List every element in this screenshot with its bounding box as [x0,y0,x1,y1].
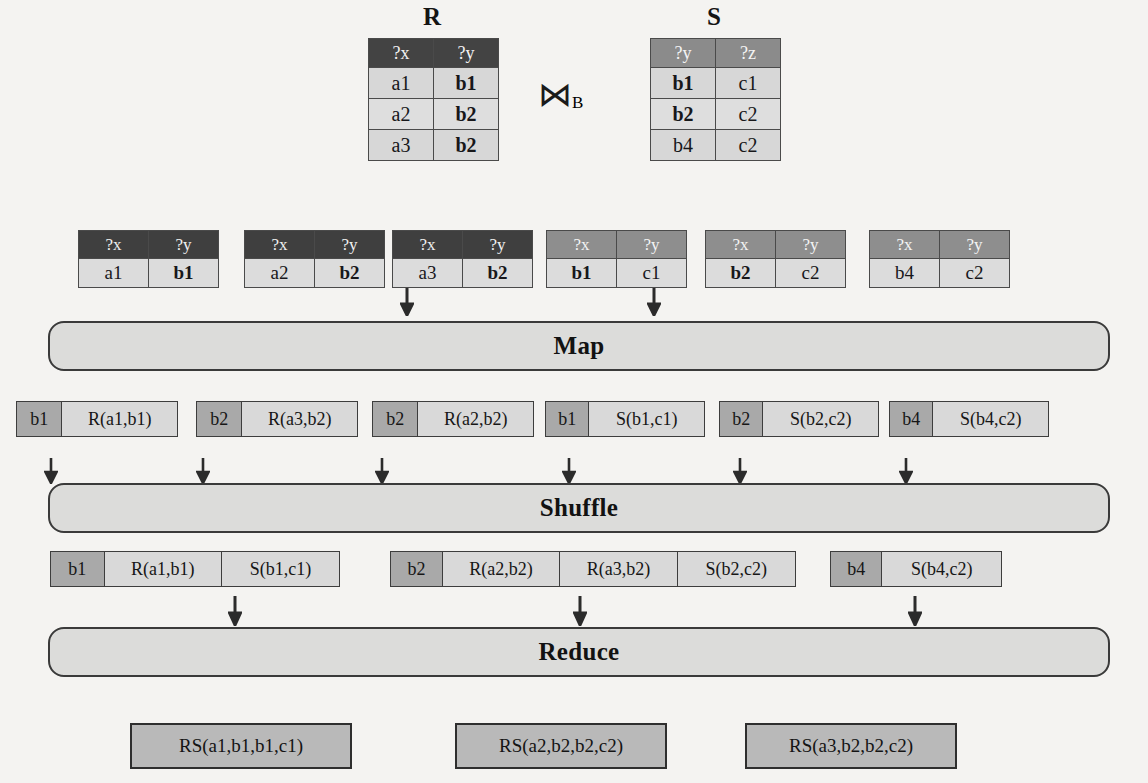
join-subscript: B [572,93,583,112]
shuffle-output-group: b4 S(b4,c2) [830,551,1002,587]
stage-label-reduce: Reduce [539,638,620,666]
split-table: ?x ?y a2 b2 [244,230,385,288]
column-header-x: ?x [245,231,315,259]
pair-value: S(b4,c2) [933,402,1048,436]
column-header-z: ?z [716,39,781,68]
arrow-down-icon [400,288,414,316]
table-header-row: ?x ?y [706,231,846,259]
cell-x: a3 [369,130,434,161]
table-header-row: ?x ?y [547,231,687,259]
table-header-row: ?x ?y [369,39,499,68]
relation-s-table: ?y ?z b1 c1 b2 c2 b4 c2 [650,38,781,161]
cell-y: c1 [617,259,687,288]
column-header-y: ?y [651,39,716,68]
pair-key: b2 [373,402,418,436]
group-key: b1 [51,552,105,586]
column-header-x: ?x [393,231,463,259]
split-table: ?x ?y b1 c1 [546,230,687,288]
cell-y: b2 [434,130,499,161]
map-output-pair: b1 R(a1,b1) [16,401,178,437]
cell-y: b2 [463,259,533,288]
cell-y: b2 [315,259,385,288]
column-header-y: ?y [434,39,499,68]
table-header-row: ?x ?y [870,231,1010,259]
group-key: b2 [391,552,443,586]
cell-x: b1 [547,259,617,288]
pair-key: b2 [720,402,763,436]
map-output-pair: b2 R(a2,b2) [372,401,534,437]
cell-y: b1 [149,259,219,288]
pair-key: b4 [890,402,933,436]
cell-y: b1 [434,68,499,99]
cell-y: c2 [776,259,846,288]
map-output-pair: b2 S(b2,c2) [719,401,879,437]
reduce-result-box: RS(a2,b2,b2,c2) [455,723,667,769]
shuffle-output-group: b1 R(a1,b1) S(b1,c1) [50,551,340,587]
cell-x: a1 [79,259,149,288]
diagram-canvas: R ?x ?y a1 b1 a2 b2 a3 b2 ⋈B S ?y ?z b1 … [0,0,1148,783]
pair-value: S(b2,c2) [763,402,878,436]
column-header-y: ?y [617,231,687,259]
arrow-down-icon [573,596,587,626]
arrow-down-icon [228,596,242,626]
table-header-row: ?x ?y [393,231,533,259]
stage-label-map: Map [554,332,605,360]
relation-r-table: ?x ?y a1 b1 a2 b2 a3 b2 [368,38,499,161]
map-output-pair: b2 R(a3,b2) [196,401,358,437]
cell-y: b4 [651,130,716,161]
reduce-result-box: RS(a3,b2,b2,c2) [745,723,957,769]
column-header-y: ?y [776,231,846,259]
group-value: S(b4,c2) [882,552,1001,586]
pair-value: R(a3,b2) [242,402,357,436]
pair-value: R(a2,b2) [418,402,533,436]
pair-value: S(b1,c1) [589,402,704,436]
table-header-row: ?x ?y [245,231,385,259]
cell-x: a2 [369,99,434,130]
column-header-x: ?x [870,231,940,259]
cell-x: a3 [393,259,463,288]
table-row: a1 b1 [369,68,499,99]
cell-y: b2 [651,99,716,130]
table-row: a3 b2 [369,130,499,161]
table-row: a2 b2 [245,259,385,288]
table-row: b1 c1 [547,259,687,288]
table-row: a2 b2 [369,99,499,130]
table-header-row: ?x ?y [79,231,219,259]
relation-s-caption: S [650,4,778,29]
column-header-y: ?y [315,231,385,259]
pair-key: b1 [546,402,589,436]
shuffle-output-group: b2 R(a2,b2) R(a3,b2) S(b2,c2) [390,551,796,587]
cell-x: b4 [870,259,940,288]
map-output-pair: b1 S(b1,c1) [545,401,705,437]
column-header-x: ?x [547,231,617,259]
table-row: a1 b1 [79,259,219,288]
group-value: R(a3,b2) [560,552,677,586]
table-row: b4 c2 [870,259,1010,288]
column-header-x: ?x [369,39,434,68]
cell-x: a2 [245,259,315,288]
split-table: ?x ?y a3 b2 [392,230,533,288]
reduce-result-box: RS(a1,b1,b1,c1) [130,723,352,769]
pair-key: b1 [17,402,62,436]
cell-z: c2 [716,99,781,130]
cell-y: b1 [651,68,716,99]
pair-value: R(a1,b1) [62,402,177,436]
table-header-row: ?y ?z [651,39,781,68]
column-header-y: ?y [149,231,219,259]
stage-bar-shuffle: Shuffle [48,483,1110,533]
cell-y: b2 [434,99,499,130]
column-header-x: ?x [79,231,149,259]
table-row: b2 c2 [706,259,846,288]
cell-z: c2 [716,130,781,161]
map-output-pair: b4 S(b4,c2) [889,401,1049,437]
column-header-y: ?y [463,231,533,259]
cell-x: b2 [706,259,776,288]
table-row: a3 b2 [393,259,533,288]
stage-bar-reduce: Reduce [48,627,1110,677]
group-value: R(a1,b1) [105,552,222,586]
cell-x: a1 [369,68,434,99]
column-header-y: ?y [940,231,1010,259]
column-header-x: ?x [706,231,776,259]
stage-label-shuffle: Shuffle [540,494,619,522]
table-row: b1 c1 [651,68,781,99]
